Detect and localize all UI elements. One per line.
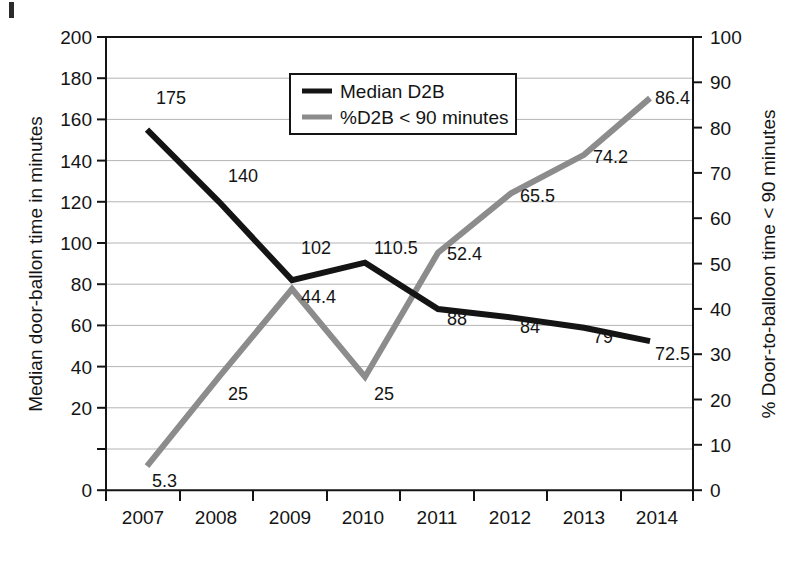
right-tick-label: 60 [710,208,731,229]
data-label-median-2010: 110.5 [374,238,418,258]
left-tick-label: 200 [60,27,92,48]
x-axis-category-labels: 2007 2008 2009 2010 2011 2012 2013 2014 [122,507,679,528]
data-labels-percent-d2b: 5.3 25 44.4 25 52.4 65.5 74.2 86.4 [152,88,690,491]
left-tick-label: 120 [60,192,92,213]
data-label-median-2014: 72.5 [655,344,690,364]
right-tick-label: 0 [710,480,721,501]
page-binding-mark [9,2,14,18]
data-label-percent-2009: 44.4 [301,287,336,307]
data-label-median-2009: 102 [301,238,331,258]
left-tick-label: 140 [60,151,92,172]
right-tick-label: 70 [710,163,731,184]
right-axis-ticks [693,37,702,490]
right-tick-label: 80 [710,118,731,139]
data-label-percent-2012: 65.5 [520,186,555,206]
data-label-percent-2011: 52.4 [447,244,482,264]
data-label-percent-2013: 74.2 [593,147,628,167]
data-label-percent-2008: 25 [228,384,248,404]
chart-legend: Median D2B %D2B < 90 minutes [290,74,516,134]
left-tick-label: 80 [71,274,92,295]
left-tick-label: 60 [71,315,92,336]
left-tick-label: 100 [60,233,92,254]
x-tick-label-2010: 2010 [342,507,384,528]
right-axis-tick-labels: 100 90 80 70 60 50 40 30 20 10 0 [710,27,742,501]
left-tick-label: 20 [71,398,92,419]
data-label-median-2012: 84 [520,317,540,337]
legend-label-median-d2b: Median D2B [340,81,445,102]
right-tick-label: 100 [710,27,742,48]
x-tick-label-2009: 2009 [269,507,311,528]
x-tick-label-2008: 2008 [195,507,237,528]
right-tick-label: 20 [710,390,731,411]
right-tick-label: 40 [710,299,731,320]
chart-figure: 200 180 160 140 120 100 80 60 40 20 0 [0,0,793,569]
right-tick-label: 10 [710,435,731,456]
data-label-percent-2007: 5.3 [152,471,177,491]
data-label-percent-2010: 25 [374,384,394,404]
data-label-median-2013: 79 [593,327,613,347]
right-tick-label: 90 [710,72,731,93]
x-tick-label-2014: 2014 [636,507,679,528]
x-tick-label-2013: 2013 [563,507,605,528]
x-tick-label-2011: 2011 [417,507,458,528]
data-label-median-2008: 140 [228,166,258,186]
data-label-percent-2014: 86.4 [655,88,690,108]
left-axis-ticks [97,37,106,490]
left-axis-tick-labels: 200 180 160 140 120 100 80 60 40 20 0 [60,27,92,501]
right-tick-label: 50 [710,254,731,275]
left-tick-label: 160 [60,109,92,130]
legend-label-percent-d2b: %D2B < 90 minutes [340,107,508,128]
x-axis-ticks [106,490,693,501]
data-label-median-2011: 88 [447,309,467,329]
left-tick-label: 40 [71,357,92,378]
x-tick-label-2012: 2012 [489,507,531,528]
data-label-median-2007: 175 [156,88,186,108]
right-axis-title: % Door-to-balloon time < 90 minutes [758,110,779,419]
left-tick-label: 0 [81,480,92,501]
dual-axis-line-chart: 200 180 160 140 120 100 80 60 40 20 0 [0,0,793,569]
x-tick-label-2007: 2007 [122,507,164,528]
right-tick-label: 30 [710,344,731,365]
left-tick-label: 180 [60,68,92,89]
left-axis-title: Median door-ballon time in minutes [25,116,46,412]
